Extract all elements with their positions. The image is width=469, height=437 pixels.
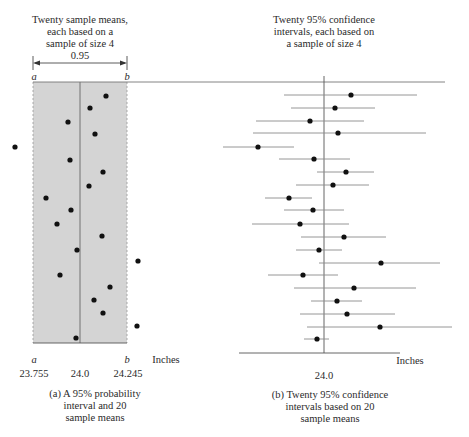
panel-a-title: Twenty sample means, each based on a sam… (10, 14, 150, 50)
interval-mean-dot (351, 285, 356, 290)
interval-mean-dot (343, 169, 348, 174)
sample-mean-dot (107, 284, 112, 289)
tick-label-b-center: 24.0 (304, 370, 344, 382)
sample-mean-dot (67, 157, 72, 162)
sample-mean-dot (68, 207, 73, 212)
sample-mean-dot (92, 131, 97, 136)
arrowhead-right-icon (120, 61, 127, 66)
interval-mean-dot (348, 92, 353, 97)
sample-mean-dot (12, 144, 17, 149)
interval-mean-dot (344, 311, 349, 316)
sample-mean-dot (87, 105, 92, 110)
arrowhead-left-icon (33, 61, 40, 66)
panel-b-title: Twenty 95% confidence intervals, each ba… (254, 14, 394, 50)
interval-mean-dot (311, 156, 316, 161)
sample-mean-dot (103, 93, 108, 98)
interval-mean-dot (314, 336, 319, 341)
confidence-intervals-group (223, 92, 452, 341)
interval-mean-dot (378, 260, 383, 265)
interval-mean-dot (377, 324, 382, 329)
interval-mean-dot (297, 221, 302, 226)
label-b-bottom: b (122, 354, 132, 366)
sample-mean-dot (100, 310, 105, 315)
tick-label-a-left: 23.755 (14, 368, 54, 380)
axis-unit-a: Inches (146, 354, 186, 366)
label-b-top: b (122, 71, 132, 83)
sample-mean-dot (135, 258, 140, 263)
label-a-top: a (29, 71, 39, 83)
sample-mean-dot (99, 233, 104, 238)
interval-mean-dot (307, 118, 312, 123)
interval-mean-dot (341, 234, 346, 239)
interval-mean-dot (330, 182, 335, 187)
interval-mean-dot (286, 195, 291, 200)
sample-mean-dot (86, 183, 91, 188)
axis-unit-b: Inches (390, 355, 430, 367)
label-a-bottom: a (29, 354, 39, 366)
sample-mean-dot (43, 195, 48, 200)
tick-label-a-center: 24.0 (62, 368, 98, 380)
interval-mean-dot (310, 207, 315, 212)
interval-mean-dot (300, 272, 305, 277)
interval-mean-dot (332, 105, 337, 110)
sample-mean-dot (134, 323, 139, 328)
sample-mean-dot (74, 247, 79, 252)
interval-mean-dot (316, 247, 321, 252)
sample-mean-dot (54, 221, 59, 226)
interval-mean-dot (255, 144, 260, 149)
sample-mean-dot (100, 169, 105, 174)
caption-b: (b) Twenty 95% confidence intervals base… (250, 389, 410, 425)
interval-mean-dot (334, 298, 339, 303)
sample-mean-dot (91, 297, 96, 302)
interval-probability-label: 0.95 (60, 50, 100, 62)
caption-a: (a) A 95% probability interval and 20 sa… (20, 388, 170, 424)
sample-mean-dot (73, 335, 78, 340)
sample-mean-dot (57, 272, 62, 277)
tick-label-a-right: 24.245 (106, 368, 150, 380)
interval-mean-dot (335, 130, 340, 135)
sample-mean-dot (65, 119, 70, 124)
